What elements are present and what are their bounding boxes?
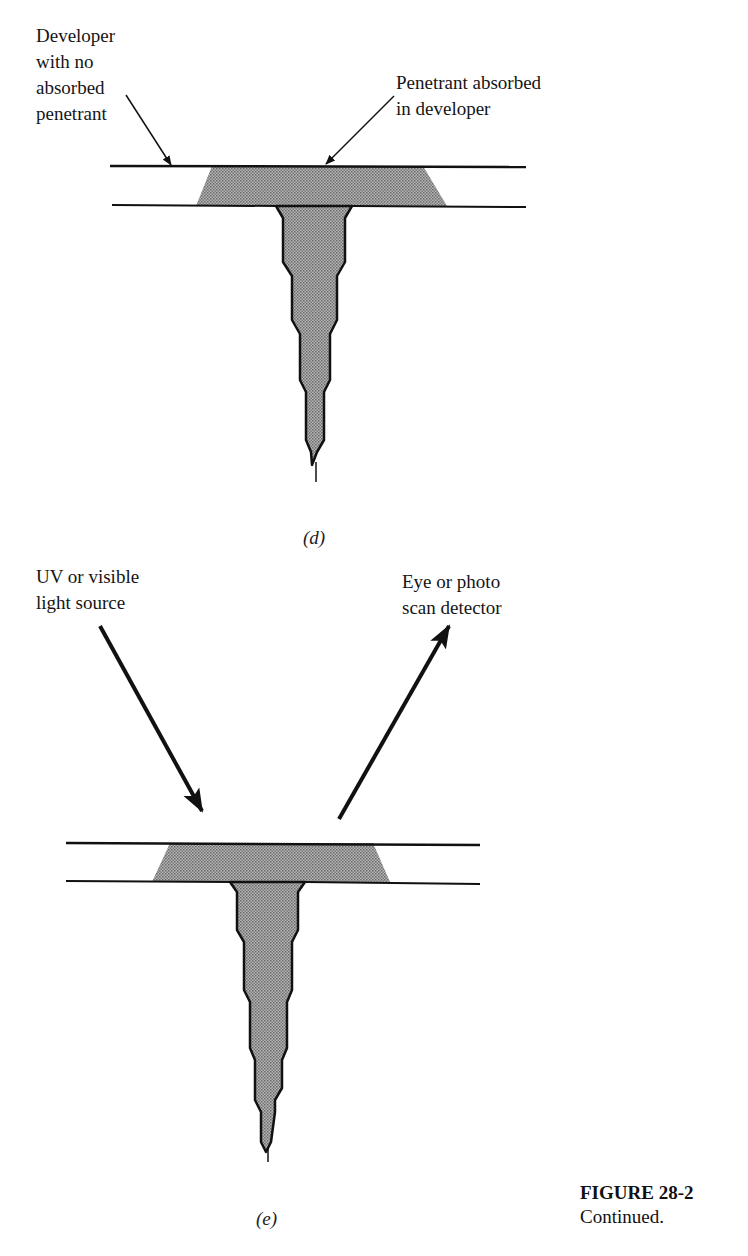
label-developer-no-penetrant: Developer with no absorbed penetrant (36, 23, 115, 127)
specimen-surface-right (352, 206, 526, 207)
specimen-surface-right (305, 882, 480, 884)
crack-shape (276, 206, 352, 465)
incident-light-arrow (100, 626, 202, 811)
figure-caption-title: FIGURE 28-2 (580, 1182, 693, 1204)
reflected-light-arrow (339, 626, 449, 819)
label-light-source: UV or visible light source (36, 564, 139, 616)
absorbed-penetrant-region (152, 843, 390, 882)
developer-top-line (66, 843, 480, 845)
panel-e-diagram (66, 626, 480, 1162)
panel-d-diagram (110, 95, 526, 482)
figure-caption-text: Continued. (580, 1206, 664, 1228)
label-detector: Eye or photo scan detector (402, 569, 502, 621)
leader-developer-no-penetrant (126, 95, 171, 165)
specimen-surface-left (112, 205, 276, 206)
absorbed-penetrant-region (196, 166, 447, 206)
leader-penetrant-absorbed (326, 96, 394, 164)
crack-shape (230, 882, 305, 1152)
label-penetrant-absorbed: Penetrant absorbed in developer (396, 70, 541, 122)
specimen-surface-left (66, 881, 230, 882)
figure-canvas (0, 0, 748, 1256)
developer-top-line (110, 166, 526, 167)
panel-e-sublabel: (e) (256, 1208, 277, 1230)
panel-d-sublabel: (d) (303, 527, 325, 549)
